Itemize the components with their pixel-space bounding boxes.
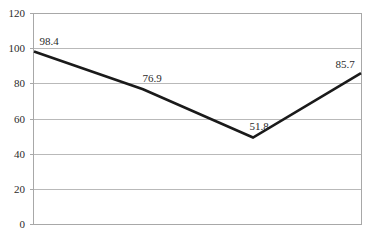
y-axis-label-40: 40	[14, 148, 26, 160]
y-axis-label-80: 80	[14, 77, 26, 89]
y-axis-label-20: 20	[14, 183, 26, 195]
y-axis-label-100: 100	[9, 42, 26, 54]
plot-background	[34, 14, 362, 225]
chart-canvas: 120 100 80 60 40 20 0 98.4 76.9 51.8 85.…	[0, 0, 370, 246]
y-axis-label-60: 60	[14, 113, 26, 125]
y-axis-label-0: 0	[20, 218, 26, 230]
y-axis-ticks	[30, 14, 34, 225]
y-axis-labels: 120 100 80 60 40 20 0	[9, 7, 26, 230]
y-axis-label-120: 120	[9, 7, 26, 19]
line-chart: 120 100 80 60 40 20 0 98.4 76.9 51.8 85.…	[0, 0, 370, 246]
data-label-76-9: 76.9	[142, 72, 162, 84]
data-label-98-4: 98.4	[39, 35, 59, 47]
data-label-85-7: 85.7	[335, 58, 355, 70]
data-label-51-8: 51.8	[249, 120, 269, 132]
